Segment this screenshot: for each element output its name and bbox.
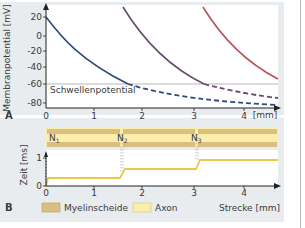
panel-label-b: B <box>5 202 13 213</box>
legend-swatch-axon <box>133 203 151 212</box>
svg-text:0: 0 <box>43 111 49 121</box>
legend-label-myelin: Myelinscheide <box>64 203 128 213</box>
svg-text:0: 0 <box>36 31 42 41</box>
threshold-label: Schwellenpotential <box>50 85 136 95</box>
x-label-b: Strecke [mm] <box>219 203 280 213</box>
svg-text:4: 4 <box>241 111 247 121</box>
svg-text:1: 1 <box>36 153 42 163</box>
svg-text:1: 1 <box>91 188 97 198</box>
svg-text:-60: -60 <box>27 79 42 89</box>
plot-area-b <box>46 150 278 186</box>
y-ticks-b: 1 0 <box>36 153 42 191</box>
figure-svg: Schwellenpotential 20 0 -20 -40 -60 -80 <box>0 0 305 228</box>
y-ticks-a: 20 0 -20 -40 -60 -80 <box>27 12 42 108</box>
svg-text:3: 3 <box>191 111 197 121</box>
svg-text:0: 0 <box>43 188 49 198</box>
svg-text:3: 3 <box>191 188 197 198</box>
svg-text:-80: -80 <box>27 98 42 108</box>
svg-text:4: 4 <box>241 188 247 198</box>
panel-label-a: A <box>5 110 13 121</box>
y-label-a: Membranpotential [mV] <box>2 4 12 112</box>
y-label-b: Zeit [ms] <box>19 144 29 185</box>
svg-text:0: 0 <box>36 181 42 191</box>
svg-text:-40: -40 <box>27 62 42 72</box>
svg-text:1: 1 <box>91 111 97 121</box>
panel-a-plot: Schwellenpotential 20 0 -20 -40 -60 -80 <box>2 3 281 121</box>
x-ticks-b: 0 1 2 3 4 <box>43 188 247 198</box>
legend-label-axon: Axon <box>155 203 177 213</box>
svg-text:2: 2 <box>139 188 145 198</box>
x-unit-a: [mm] <box>253 110 278 120</box>
panel-b-plot: N1 N2 N3 1 0 0 1 2 3 4 Zeit [ms] B <box>5 128 281 213</box>
svg-text:-20: -20 <box>27 46 42 56</box>
svg-text:2: 2 <box>139 111 145 121</box>
svg-text:20: 20 <box>31 12 43 22</box>
legend-swatch-myelin <box>42 203 60 212</box>
x-ticks-a: 0 1 2 3 4 <box>43 111 247 121</box>
